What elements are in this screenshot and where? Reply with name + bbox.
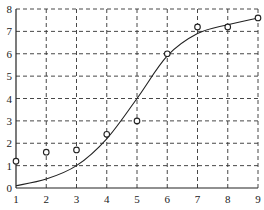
x-axis-ticks: 123456789 (13, 193, 261, 205)
y-tick-label: 2 (7, 137, 13, 149)
data-point-marker (225, 24, 231, 30)
data-point-marker (134, 118, 140, 124)
chart: 123456789 012345678 (0, 0, 264, 210)
y-axis-ticks: 012345678 (7, 3, 13, 194)
x-tick-label: 2 (44, 193, 50, 205)
x-tick-label: 4 (104, 193, 110, 205)
x-tick-label: 9 (255, 193, 261, 205)
data-point-marker (104, 132, 110, 138)
data-point-marker (195, 24, 201, 30)
data-point-marker (164, 51, 170, 57)
data-point-marker (43, 149, 49, 155)
y-tick-label: 3 (7, 115, 13, 127)
y-tick-label: 6 (7, 48, 13, 60)
x-tick-label: 7 (195, 193, 201, 205)
x-tick-label: 5 (134, 193, 140, 205)
y-tick-label: 1 (7, 160, 13, 172)
x-tick-label: 8 (225, 193, 231, 205)
data-point-marker (74, 147, 80, 153)
y-tick-label: 8 (7, 3, 13, 15)
data-point-marker (255, 15, 261, 21)
y-tick-label: 5 (7, 70, 13, 82)
x-tick-label: 6 (165, 193, 171, 205)
x-tick-label: 1 (13, 193, 19, 205)
x-tick-label: 3 (74, 193, 80, 205)
y-tick-label: 4 (7, 93, 13, 105)
y-tick-label: 7 (7, 25, 13, 37)
data-point-marker (13, 158, 19, 164)
y-tick-label: 0 (7, 182, 13, 194)
